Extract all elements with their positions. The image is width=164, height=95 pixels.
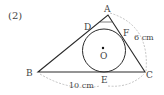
label-f: F: [123, 28, 129, 38]
triangle-abc: [38, 15, 145, 72]
ac-dimension-arc: [110, 13, 146, 71]
center-point: [102, 47, 104, 49]
label-d: D: [84, 22, 91, 32]
triangle-incircle-diagram: (2) A B C D E F O 6 cm 10 cm: [0, 0, 164, 95]
problem-number: (2): [8, 10, 22, 21]
label-c: C: [146, 70, 153, 80]
bc-dimension-arc-right: [108, 74, 144, 86]
length-bc: 10 cm: [69, 81, 94, 90]
label-e: E: [101, 75, 108, 85]
label-b: B: [26, 68, 33, 78]
label-o: O: [100, 51, 107, 61]
length-ac: 6 cm: [134, 33, 154, 42]
label-a: A: [103, 4, 111, 14]
